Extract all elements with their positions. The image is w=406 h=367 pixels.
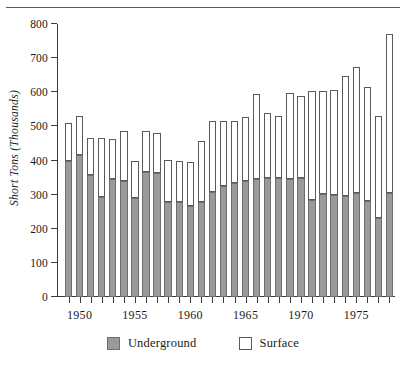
bar-segment-surface: [231, 121, 238, 183]
bar-stack: [342, 76, 349, 297]
bar-segment-surface: [297, 96, 304, 178]
x-axis-tick: [113, 297, 114, 303]
bar-stack: [353, 67, 360, 297]
x-axis-tick: [80, 297, 81, 303]
bar-segment-surface: [65, 123, 72, 161]
bar-stack: [386, 34, 393, 297]
bar-stack: [131, 161, 138, 298]
y-axis-tick: [51, 57, 57, 58]
header-divider: [6, 7, 400, 8]
bar-segment-underground: [176, 202, 183, 297]
bar-stack: [176, 161, 183, 297]
y-axis-tick: [51, 296, 57, 297]
y-axis-tick: [51, 23, 57, 24]
bar-segment-surface: [164, 160, 171, 202]
bar-segment-underground: [164, 202, 171, 297]
bar-stack: [87, 138, 94, 297]
chart-figure: Short Tons (Thousands) 01002003004005006…: [0, 0, 406, 367]
bar-segment-underground: [319, 194, 326, 297]
bar-stack: [120, 131, 127, 297]
x-axis-tick: [69, 297, 70, 303]
bar-segment-surface: [176, 161, 183, 203]
bar-stack: [109, 139, 116, 297]
bar-segment-underground: [253, 179, 260, 297]
x-axis-tick: [367, 297, 368, 303]
bar-segment-surface: [286, 93, 293, 179]
bar-segment-surface: [98, 138, 105, 196]
bar-segment-underground: [375, 218, 382, 297]
bar-stack: [187, 162, 194, 297]
x-axis-tick: [212, 297, 213, 303]
bar-segment-underground: [220, 186, 227, 297]
bar-segment-underground: [264, 178, 271, 297]
x-axis-tick: [279, 297, 280, 303]
bar-stack: [65, 123, 72, 297]
bar-stack: [153, 133, 160, 297]
y-axis-tick: [51, 262, 57, 263]
bar-segment-surface: [209, 121, 216, 192]
x-axis-tick: [301, 297, 302, 303]
chart-legend: Underground Surface: [0, 336, 406, 351]
bar-segment-surface: [120, 131, 127, 181]
x-axis-tick: [268, 297, 269, 303]
bar-segment-surface: [253, 94, 260, 179]
x-axis-tick: [201, 297, 202, 303]
bar-stack: [275, 116, 282, 297]
bar-segment-surface: [87, 138, 94, 176]
bar-stack: [364, 87, 371, 297]
bar-segment-underground: [242, 181, 249, 297]
bar-segment-surface: [131, 161, 138, 199]
bar-segment-underground: [364, 201, 371, 297]
bar-segment-underground: [131, 198, 138, 297]
bar-segment-underground: [353, 193, 360, 297]
x-axis-tick: [146, 297, 147, 303]
bar-stack: [297, 96, 304, 297]
y-axis-tick-label: 800: [30, 18, 48, 30]
bar-segment-surface: [153, 133, 160, 174]
legend-swatch-surface-icon: [239, 337, 252, 350]
y-axis-tick: [51, 91, 57, 92]
plot-area: 0100200300400500600700800 19501955196019…: [57, 24, 395, 297]
y-axis-tick: [51, 228, 57, 229]
bar-segment-surface: [375, 116, 382, 218]
bar-stack: [330, 90, 337, 297]
bar-stack: [253, 94, 260, 297]
x-axis-tick: [190, 297, 191, 303]
y-axis-tick: [51, 160, 57, 161]
bar-segment-underground: [109, 179, 116, 297]
y-axis-tick-label: 300: [30, 189, 48, 201]
bar-stack: [164, 160, 171, 297]
bar-stack: [98, 138, 105, 297]
x-axis-tick-label: 1950: [67, 308, 92, 323]
x-axis-tick: [323, 297, 324, 303]
bar-segment-underground: [209, 192, 216, 297]
bar-segment-surface: [198, 141, 205, 202]
legend-label-underground: Underground: [128, 336, 197, 351]
legend-item-underground: Underground: [107, 336, 197, 351]
bar-segment-surface: [76, 116, 83, 156]
bar-segment-surface: [330, 90, 337, 195]
bar-segment-underground: [231, 183, 238, 297]
y-axis-tick: [51, 194, 57, 195]
bar-segment-surface: [109, 139, 116, 179]
bar-stack: [264, 113, 271, 297]
y-axis-tick-label: 500: [30, 120, 48, 132]
x-axis-tick: [179, 297, 180, 303]
x-axis-tick: [157, 297, 158, 303]
bar-stack: [319, 91, 326, 297]
bar-segment-underground: [187, 206, 194, 297]
y-axis-tick: [51, 125, 57, 126]
bar-segment-underground: [275, 178, 282, 297]
bar-segment-underground: [76, 155, 83, 297]
bar-segment-underground: [65, 161, 72, 297]
bar-stack: [76, 116, 83, 297]
bar-stack: [198, 141, 205, 297]
bar-segment-surface: [319, 91, 326, 194]
y-axis-tick-label: 600: [30, 86, 48, 98]
bar-segment-underground: [98, 197, 105, 297]
y-axis-title: Short Tons (Thousands): [8, 90, 20, 206]
y-axis-tick-label: 100: [30, 257, 48, 269]
x-axis-tick: [235, 297, 236, 303]
bar-segment-surface: [142, 131, 149, 172]
bar-stack: [308, 91, 315, 297]
